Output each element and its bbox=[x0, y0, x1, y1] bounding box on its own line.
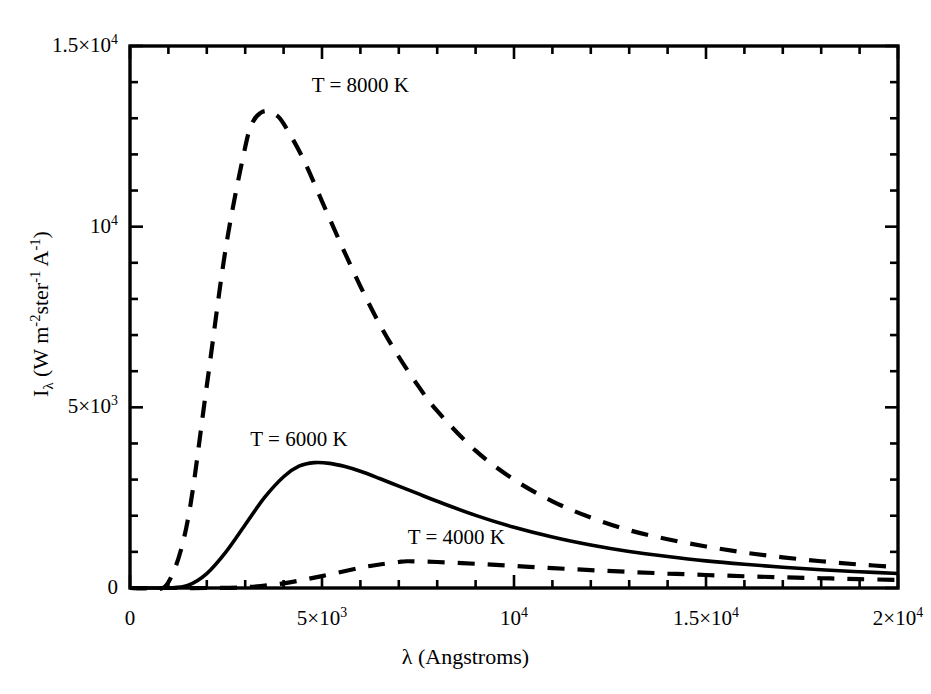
x-tick-label-1.5e4: 1.5×104 bbox=[646, 608, 766, 629]
curve-label-8000k: T = 8000 K bbox=[280, 75, 440, 96]
y-axis-title: Iλ (W m-2ster-1 A-1) bbox=[30, 34, 52, 594]
x-tick-label-5e3: 5×103 bbox=[262, 608, 382, 629]
x-axis-title: λ (Angstroms) bbox=[0, 646, 931, 668]
curve-label-4000k: T = 4000 K bbox=[376, 527, 536, 548]
x-tick-label-0: 0 bbox=[70, 608, 190, 629]
curve-label-6000k: T = 6000 K bbox=[219, 429, 379, 450]
y-tick-label-1.5e4: 1.5×104 bbox=[0, 35, 118, 56]
y-tick-label-0: 0 bbox=[0, 577, 118, 598]
blackbody-spectrum-figure: 0 5×103 104 1.5×104 0 5×103 104 1.5×104 … bbox=[0, 0, 931, 694]
x-tick-label-2e4: 2×104 bbox=[838, 608, 931, 629]
y-tick-label-5e3: 5×103 bbox=[0, 396, 118, 417]
plot-canvas bbox=[0, 0, 931, 694]
x-tick-label-1e4: 104 bbox=[454, 608, 574, 629]
y-tick-label-1e4: 104 bbox=[0, 216, 118, 237]
